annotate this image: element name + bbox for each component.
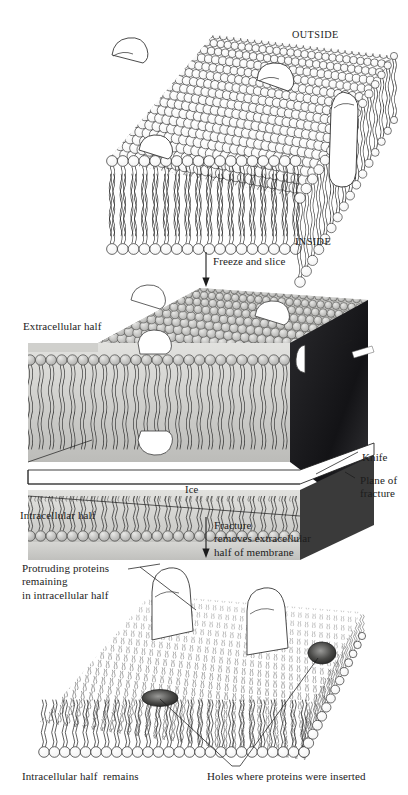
figure-canvas: OUTSIDE INSIDE Freeze and slice Extracel… (0, 0, 408, 795)
label-knife: Knife (362, 451, 388, 464)
label-protruding-line3: in intracellular half (22, 589, 108, 601)
label-protruding-line1: Protruding proteins (22, 562, 109, 574)
label-outside: OUTSIDE (292, 28, 339, 41)
label-extracellular-half: Extracellular half (23, 320, 101, 333)
label-fracture-line3: half of membrane (214, 546, 294, 558)
label-freeze-and-slice: Freeze and slice (213, 255, 285, 268)
label-protruding-proteins: Protruding proteinsremainingin intracell… (22, 562, 109, 602)
label-protruding-line2: remaining (22, 575, 68, 587)
label-plane-line1: Plane of (360, 474, 397, 486)
label-ice: Ice (185, 483, 198, 496)
label-plane-of-fracture: Plane offracture (360, 474, 397, 501)
label-fracture-removes: Fractureremoves extracellularhalf of mem… (214, 519, 311, 559)
panel-intact-membrane (95, 31, 401, 287)
label-intracellular-half: Intracellular half (20, 509, 95, 522)
exposed-tail-field (29, 592, 365, 766)
upper-slab-left-shoulder (28, 343, 98, 352)
label-fracture-line1: Fracture (214, 519, 251, 531)
freeze-fracture-diagram (0, 0, 408, 795)
label-fracture-line2: removes extracellular (214, 532, 311, 544)
label-holes-where-proteins: Holes where proteins were inserted (207, 770, 366, 783)
protruding-proteins (152, 568, 288, 655)
label-inside: INSIDE (295, 235, 331, 248)
transmembrane-protein (329, 92, 358, 187)
lower-leaflet-heads (39, 747, 310, 758)
label-intracellular-half-remains: Intracellular half remains (22, 770, 139, 783)
lower-leaflet-right-edge-heads (299, 615, 366, 757)
protein-holes (142, 642, 336, 707)
label-plane-line2: fracture (360, 487, 395, 499)
freeze-and-slice-arrow (202, 252, 209, 287)
